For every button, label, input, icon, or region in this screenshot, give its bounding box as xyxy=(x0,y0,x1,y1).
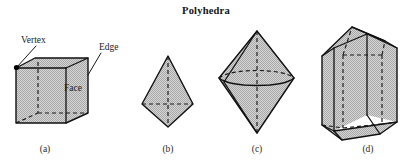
caption-a: (a) xyxy=(28,144,62,155)
panel-d-prism xyxy=(322,27,397,140)
edge-label: Edge xyxy=(99,42,119,53)
prism-d-front-left-face xyxy=(334,34,367,131)
polyhedra-figure: Polyhedra xyxy=(0,0,412,168)
panel-c-bipyramid xyxy=(219,31,294,133)
panel-b-bipyramid xyxy=(142,56,193,127)
caption-c: (c) xyxy=(240,144,274,155)
panel-a-cube xyxy=(14,46,101,123)
prism-d-left-flank xyxy=(322,48,334,131)
face-label: Face xyxy=(64,83,82,94)
vertex-marker-dot xyxy=(14,65,19,70)
cube-front-face xyxy=(16,68,66,123)
polyhedra-artwork xyxy=(0,0,412,168)
edge-leader-line xyxy=(88,53,101,75)
caption-b: (b) xyxy=(151,144,185,155)
caption-d: (d) xyxy=(351,144,385,155)
vertex-label: Vertex xyxy=(21,35,46,46)
